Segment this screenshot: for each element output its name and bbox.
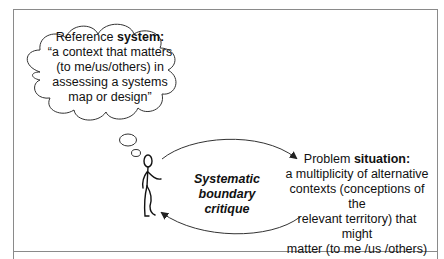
problem-situation-title: Problem situation: (282, 152, 432, 167)
problem-situation-line: a multiplicity of alternative (282, 167, 432, 182)
problem-situation-text: Problem situation: a multiplicity of alt… (282, 152, 432, 257)
problem-situation-line: contexts (conceptions of the (282, 182, 432, 212)
reference-system-line: “a context that matters (44, 45, 176, 60)
reference-system-line: (to me/us/others) in (44, 60, 176, 75)
reference-system-line: assessing a systems (44, 75, 176, 90)
reference-system-title: Reference system: (44, 30, 176, 45)
reference-system-line: map or design” (44, 90, 176, 105)
problem-situation-line: relevant territory) that might (282, 212, 432, 242)
systematic-boundary-critique-label: Systematic boundary critique (182, 172, 272, 217)
reference-system-text: Reference system: “a context that matter… (44, 30, 176, 105)
stick-figure-icon (143, 155, 161, 216)
problem-situation-line: matter (to me /us /others) (282, 242, 432, 257)
